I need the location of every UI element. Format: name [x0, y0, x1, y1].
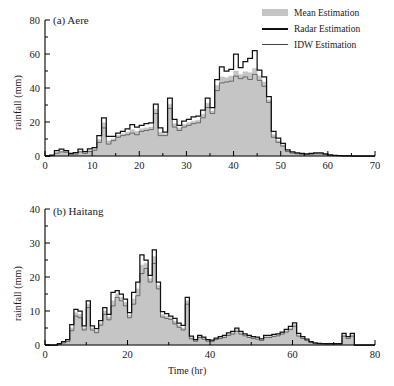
legend-label-idw: IDW Estimation	[294, 40, 356, 50]
svg-text:70: 70	[370, 160, 381, 171]
svg-text:10: 10	[87, 160, 98, 171]
svg-text:60: 60	[323, 160, 334, 171]
legend-entry-radar: Radar Estimation	[262, 22, 360, 35]
figure-root: rainfall (mm) (a) Aere 01020304050607002…	[0, 0, 394, 386]
plot-area-haitang: 020406080010203040	[0, 193, 394, 386]
legend-swatch-idw-line	[262, 40, 288, 49]
svg-text:60: 60	[287, 349, 298, 360]
legend-label-mean: Mean Estimation	[294, 8, 359, 18]
svg-text:40: 40	[30, 204, 41, 215]
y-axis-label-b: rainfall (mm)	[12, 266, 23, 321]
legend-swatch-mean-fill	[262, 8, 288, 17]
svg-text:30: 30	[181, 160, 192, 171]
svg-text:80: 80	[370, 349, 381, 360]
svg-text:0: 0	[42, 349, 47, 360]
legend-label-radar: Radar Estimation	[294, 24, 360, 34]
svg-text:20: 20	[30, 272, 41, 283]
svg-text:20: 20	[30, 117, 41, 128]
svg-text:20: 20	[122, 349, 133, 360]
x-axis-label: Time (hr)	[168, 365, 206, 376]
svg-text:20: 20	[134, 160, 145, 171]
svg-text:40: 40	[228, 160, 239, 171]
chart-panel-aere: rainfall (mm) (a) Aere 01020304050607002…	[0, 0, 394, 193]
panel-title-a: (a) Aere	[53, 14, 89, 26]
svg-text:80: 80	[30, 15, 41, 26]
svg-text:50: 50	[275, 160, 286, 171]
svg-text:40: 40	[205, 349, 216, 360]
y-axis-label-a: rainfall (mm)	[12, 75, 23, 130]
legend: Mean Estimation Radar Estimation IDW Est…	[262, 6, 360, 54]
svg-text:30: 30	[30, 238, 41, 249]
chart-panel-haitang: rainfall (mm) (b) Haitang 02040608001020…	[0, 193, 394, 386]
svg-text:60: 60	[30, 49, 41, 60]
legend-entry-mean: Mean Estimation	[262, 6, 360, 19]
legend-entry-idw: IDW Estimation	[262, 38, 360, 51]
svg-text:0: 0	[35, 340, 40, 351]
svg-text:0: 0	[35, 151, 40, 162]
svg-text:0: 0	[42, 160, 47, 171]
panel-title-b: (b) Haitang	[53, 205, 103, 217]
svg-text:40: 40	[30, 83, 41, 94]
svg-text:10: 10	[30, 306, 41, 317]
legend-swatch-radar-line	[262, 24, 288, 33]
